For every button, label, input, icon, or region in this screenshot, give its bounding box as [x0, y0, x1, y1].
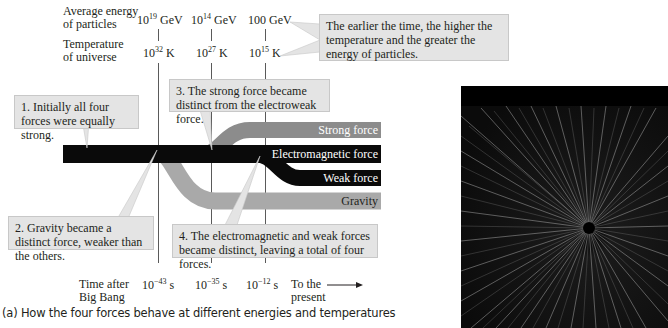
time-value-3: 10−12 s [246, 278, 278, 293]
weak-force-label: Weak force [323, 171, 378, 186]
callout-step3: 3. The strong force became distinct from… [169, 79, 330, 112]
callout-step2: 2. Gravity became a distinct force, weak… [8, 216, 154, 250]
particle-burst-graphic [461, 86, 668, 328]
gravity-label: Gravity [341, 194, 378, 209]
pointer-energy [290, 22, 320, 40]
time-axis-label: Time after Big Bang [79, 278, 129, 304]
figure-caption: (a) How the four forces behave at differ… [2, 306, 395, 320]
time-value-1: 10−43 s [142, 278, 174, 293]
pointer-temperature [280, 40, 320, 56]
present-label: To the present [291, 278, 326, 304]
pointer-step4 [225, 156, 260, 225]
callout-step1: 1. Initially all four forces were equall… [14, 95, 139, 129]
arrow-right-icon [327, 280, 363, 290]
strong-force-label: Strong force [318, 123, 378, 138]
callout-energy-note: The earlier the time, the higher the tem… [319, 14, 509, 61]
time-value-2: 10−35 s [195, 278, 227, 293]
electromagnetic-force-label: Electromagnetic force [272, 147, 378, 162]
particle-tracks-image [461, 86, 668, 328]
callout-step4: 4. The electromagnetic and weak forces b… [172, 224, 378, 258]
